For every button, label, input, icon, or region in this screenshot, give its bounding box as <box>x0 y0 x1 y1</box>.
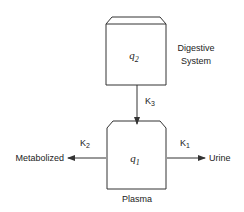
rate-label-k3: K3 <box>145 96 155 107</box>
digestive-label-line2: System <box>181 56 211 66</box>
compartment-digestive-system: q2 <box>106 17 166 85</box>
digestive-label-line1: Digestive <box>177 43 214 53</box>
rate-label-k1: K1 <box>180 138 190 149</box>
plasma-label: Plasma <box>122 194 152 204</box>
compartment-variable-q1: q1 <box>130 152 140 167</box>
sink-urine: Urine <box>209 153 231 163</box>
compartment-diagram: q2 Digestive System K3 q1 Plasma K2 Meta… <box>0 0 244 212</box>
compartment-plasma: q1 <box>107 121 166 189</box>
compartment-box-q1 <box>107 121 166 189</box>
compartment-box-q2 <box>106 17 166 85</box>
rate-label-k2: K2 <box>80 138 90 149</box>
compartment-variable-q2: q2 <box>129 49 139 64</box>
sink-metabolized: Metabolized <box>15 153 64 163</box>
